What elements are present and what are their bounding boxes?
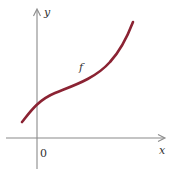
graph: y x 0 f <box>0 0 175 175</box>
y-axis <box>34 9 41 169</box>
x-axis-label: x <box>159 144 166 157</box>
y-axis-label: y <box>43 6 51 19</box>
x-axis <box>6 135 165 142</box>
curve-f <box>22 22 133 122</box>
origin-label: 0 <box>40 147 47 160</box>
curve-label: f <box>78 61 85 74</box>
